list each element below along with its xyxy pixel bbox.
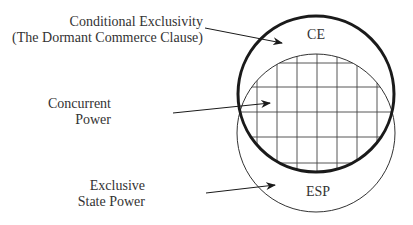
conditional-exclusivity-line1: Conditional Exclusivity xyxy=(12,14,203,30)
ce-label: CE xyxy=(300,27,332,43)
exclusive-line1: Exclusive xyxy=(78,178,145,194)
concurrent-line2: Power xyxy=(48,112,111,128)
concurrent-power-label: Concurrent Power xyxy=(48,96,111,128)
exclusive-line2: State Power xyxy=(78,194,145,210)
arrow-concurrent-power xyxy=(173,103,270,113)
conditional-exclusivity-line2: (The Dormant Commerce Clause) xyxy=(12,30,203,46)
arrow-exclusive-state-power xyxy=(206,185,275,193)
exclusive-state-power-label: Exclusive State Power xyxy=(78,178,145,210)
concurrent-line1: Concurrent xyxy=(48,96,111,112)
conditional-exclusivity-label: Conditional Exclusivity (The Dormant Com… xyxy=(12,14,203,46)
esp-label: ESP xyxy=(298,184,338,200)
